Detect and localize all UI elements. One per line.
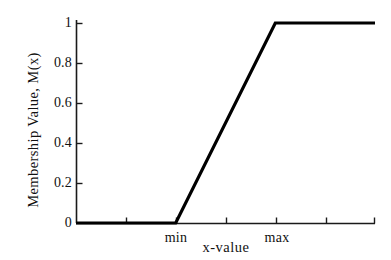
y-axis-ticks xyxy=(77,24,83,184)
chart-plot-area xyxy=(0,0,391,260)
membership-function-line xyxy=(76,23,375,223)
chart-figure: Membership Value, M(x) 1 0.8 0.6 0.4 0.2… xyxy=(0,0,391,260)
